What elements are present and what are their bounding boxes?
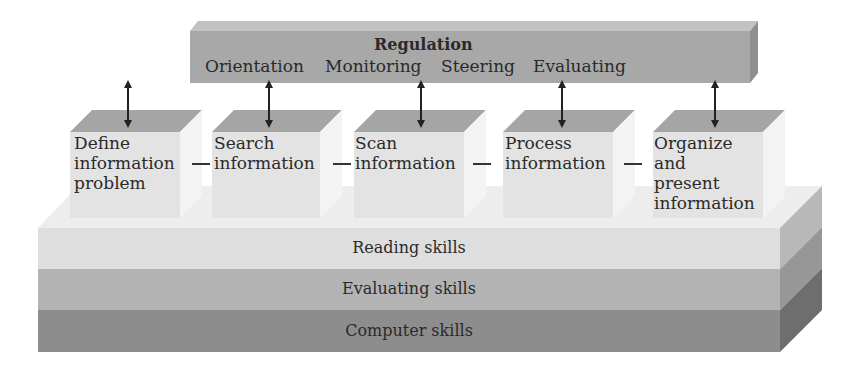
phase-orientation: Orientation <box>205 57 304 76</box>
connector-line <box>473 163 491 165</box>
step-organize-and-present-information: Organize and present information <box>654 133 755 213</box>
computer-skills-label: Computer skills <box>38 321 780 340</box>
connector-line <box>333 163 351 165</box>
step-process-information: Process information <box>505 133 606 173</box>
step-define-information-problem: Define information problem <box>74 133 175 193</box>
phase-monitoring: Monitoring <box>325 57 422 76</box>
reading-skills-label: Reading skills <box>38 238 780 257</box>
evaluating-skills-label: Evaluating skills <box>38 279 780 298</box>
connector-line <box>624 163 642 165</box>
step-scan-information: Scan information <box>355 133 456 173</box>
phase-evaluating: Evaluating <box>533 57 626 76</box>
regulation-title: Regulation <box>374 35 473 54</box>
information-problem-solving-diagram: Regulation Orientation Monitoring Steeri… <box>0 0 859 370</box>
connector-line <box>192 163 210 165</box>
phase-steering: Steering <box>441 57 515 76</box>
step-search-information: Search information <box>214 133 315 173</box>
